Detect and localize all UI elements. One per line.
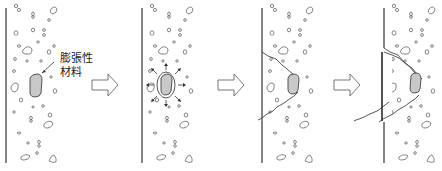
stage-2 [142, 4, 193, 163]
process-arrow-3 [334, 74, 360, 96]
expansive-material [410, 73, 421, 93]
process-arrow-2 [218, 74, 244, 96]
process-arrow-1 [92, 74, 118, 96]
stage-3 [258, 4, 313, 163]
expansive-material [288, 74, 299, 94]
popout-diagram: 膨張性 材料 [0, 0, 442, 171]
stage-4 [354, 4, 435, 163]
label-line1: 膨張性 [60, 51, 93, 65]
stage-1: 膨張性 材料 [6, 4, 93, 163]
label-line2: 材料 [60, 65, 82, 79]
expansive-material [30, 74, 42, 97]
expansive-material [161, 74, 172, 95]
